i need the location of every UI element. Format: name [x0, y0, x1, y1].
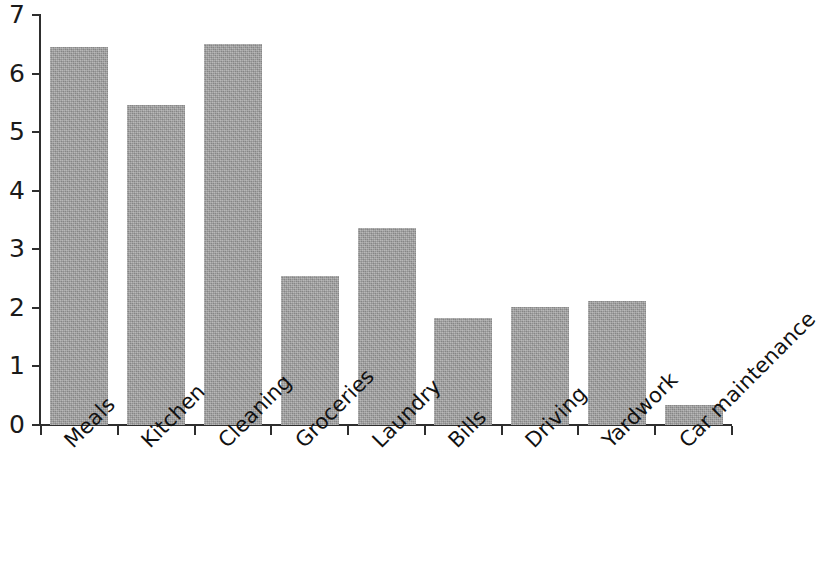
y-tick-label-1: 1 — [9, 353, 25, 378]
x-tick-3 — [270, 426, 272, 435]
y-tick-label-0: 0 — [9, 412, 25, 437]
x-tick-6 — [501, 426, 503, 435]
x-tick-5 — [424, 426, 426, 435]
x-tick-2 — [194, 426, 196, 435]
bars-container — [41, 15, 732, 425]
bar-kitchen — [127, 105, 185, 425]
y-tick-label-4: 4 — [9, 178, 25, 203]
y-tick-5: 5 — [32, 131, 40, 133]
y-tick-label-3: 3 — [9, 236, 25, 261]
x-tick-9 — [731, 426, 733, 435]
y-tick-3: 3 — [32, 248, 40, 250]
x-tick-7 — [577, 426, 579, 435]
y-tick-label-5: 5 — [9, 119, 25, 144]
y-tick-0: 0 — [32, 424, 40, 426]
y-tick-label-7: 7 — [9, 2, 25, 27]
bar-meals — [50, 47, 108, 425]
x-tick-8 — [654, 426, 656, 435]
y-tick-6: 6 — [32, 73, 40, 75]
x-tick-0 — [40, 426, 42, 435]
x-tick-1 — [117, 426, 119, 435]
y-tick-7: 7 — [32, 14, 40, 16]
y-tick-2: 2 — [32, 307, 40, 309]
y-tick-label-6: 6 — [9, 61, 25, 86]
y-tick-1: 1 — [32, 365, 40, 367]
bar-cleaning — [204, 44, 262, 425]
y-tick-4: 4 — [32, 190, 40, 192]
x-tick-4 — [347, 426, 349, 435]
bar-bills — [434, 318, 492, 425]
y-tick-label-2: 2 — [9, 295, 25, 320]
